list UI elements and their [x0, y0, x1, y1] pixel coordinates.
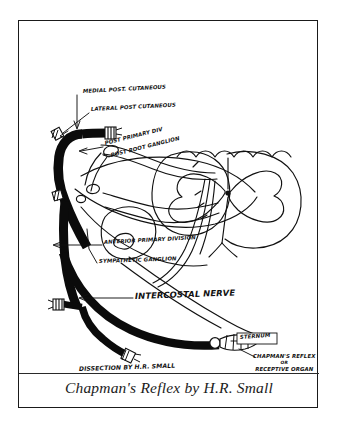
dissection-drawing-svg — [19, 21, 319, 371]
cut-nerve-stump-mid — [52, 190, 63, 201]
screenshot-root: MEDIAL POST. CUTANEOUS LATERAL POST CUTA… — [0, 0, 337, 430]
cord-right-outline — [225, 151, 301, 248]
plate-caption: Chapman's Reflex by H.R. Small — [19, 379, 319, 397]
intercostal-branch-link — [63, 304, 82, 307]
leader-sympathetic-ganglion — [87, 229, 97, 263]
plate-frame: MEDIAL POST. CUTANEOUS LATERAL POST CUTA… — [18, 20, 318, 408]
fiber-tick-1 — [195, 191, 201, 195]
cut-nerve-stump-lowerleft — [48, 299, 64, 310]
nerve-root-filament-2 — [103, 154, 217, 180]
anatomical-figure: MEDIAL POST. CUTANEOUS LATERAL POST CUTA… — [19, 21, 319, 371]
sympathetic-ganglion-body — [86, 184, 100, 195]
ganglion-swelling-small — [76, 195, 85, 202]
caption-divider — [19, 373, 319, 374]
central-canal — [225, 190, 230, 195]
cut-nerve-stump-left — [51, 127, 64, 140]
vertebral-body-outline — [101, 207, 156, 259]
fiber-tick-4 — [193, 162, 198, 167]
anterior-fissure-flare — [209, 243, 222, 257]
label-chapmans-reflex-receptive-organ: CHAPMAN'S REFLEX OR RECEPTIVE ORGAN — [253, 353, 315, 374]
gray-matter-right-horn — [228, 171, 284, 222]
label-chapmans-reflex-line1: CHAPMAN'S REFLEX — [253, 353, 315, 360]
spinal-cord-outline — [152, 152, 230, 236]
posterior-trunk-upper-limb — [82, 133, 107, 134]
